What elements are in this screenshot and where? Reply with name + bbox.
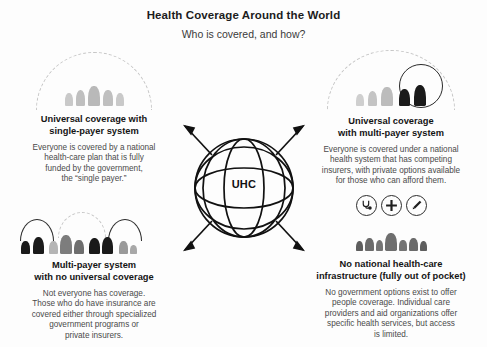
medical-cross-icon: [381, 195, 402, 216]
stethoscope-icon: [356, 195, 377, 216]
uhc-label: UHC: [176, 178, 312, 190]
art-universal-multi-payer: [303, 48, 479, 110]
center-globe-graphic: UHC: [176, 112, 312, 264]
person-icon: [409, 238, 418, 251]
person-icon-insured: [74, 240, 84, 254]
figure-group-mixed: [303, 85, 479, 106]
person-icon: [88, 86, 100, 106]
person-icon: [420, 241, 427, 251]
person-icon-insured: [49, 241, 58, 254]
person-icon-insured: [33, 237, 44, 254]
panel-universal-multi-payer: Universal coverage with multi-payer syst…: [303, 48, 479, 187]
person-icon: [356, 94, 364, 106]
person-icon-insured: [89, 238, 100, 254]
person-icon: [385, 233, 397, 251]
panel-body: No government options exist to offer peo…: [303, 288, 479, 340]
panel-heading: Universal coverage with multi-payer syst…: [303, 116, 479, 139]
person-icon-private: [399, 89, 410, 106]
medical-services-icon-row: [303, 195, 479, 216]
person-icon: [65, 93, 73, 106]
person-icon-insured: [102, 237, 113, 254]
person-icon-uninsured: [119, 241, 128, 254]
figure-group-uncovered: [303, 233, 479, 251]
page-subtitle: Who is covered, and how?: [0, 28, 487, 40]
figure-group-partial: [6, 235, 196, 254]
person-icon-insured: [60, 235, 72, 254]
person-icon: [376, 240, 384, 251]
page-title: Health Coverage Around the World: [0, 9, 487, 21]
person-icon: [365, 238, 374, 251]
figure-group-covered: [6, 86, 182, 106]
person-icon: [116, 93, 124, 106]
panel-no-national-infrastructure: No national health-care infrastructure (…: [303, 193, 479, 340]
header: Health Coverage Around the World Who is …: [0, 9, 487, 40]
panel-heading: No national health-care infrastructure (…: [303, 259, 479, 282]
art-multi-payer-no-universal: [6, 200, 182, 258]
panel-heading: Multi-payer system with no universal cov…: [6, 260, 182, 283]
panel-body: Not everyone has coverage. Those who do …: [6, 289, 182, 341]
syringe-icon: [406, 195, 427, 216]
person-icon: [76, 90, 86, 106]
art-universal-single-payer: [6, 48, 182, 110]
panel-heading: Universal coverage with single-payer sys…: [6, 114, 182, 137]
person-icon: [399, 240, 407, 251]
panel-body: Everyone is covered under a national hea…: [303, 145, 479, 187]
infographic-canvas: Health Coverage Around the World Who is …: [0, 0, 487, 347]
panel-multi-payer-no-universal: Multi-payer system with no universal cov…: [6, 200, 182, 341]
person-icon-private: [414, 85, 427, 106]
panel-universal-single-payer: Universal coverage with single-payer sys…: [6, 48, 182, 185]
person-icon: [368, 91, 378, 106]
person-icon: [103, 90, 113, 106]
person-icon: [381, 87, 393, 106]
panel-body: Everyone is covered by a national health…: [6, 143, 182, 185]
art-no-national-infrastructure: [303, 193, 479, 253]
person-icon: [356, 241, 363, 251]
person-icon-uninsured: [130, 245, 137, 254]
person-icon-insured: [21, 241, 30, 254]
